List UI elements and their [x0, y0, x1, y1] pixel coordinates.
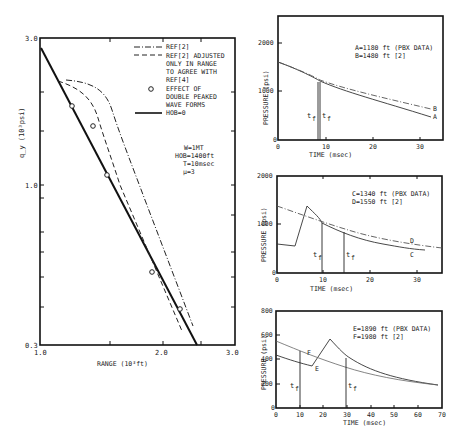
p3-xtick-40: 40 [367, 411, 375, 419]
p3-xtick-0: 0 [274, 411, 278, 419]
p1-ytick-2000: 2000 [258, 39, 274, 47]
left-legend: REF[2] REF[2] ADJUSTED ONLY IN RANGE TO … [134, 43, 225, 117]
p3-legend-e: E=1890 ft (PBX DATA) [353, 325, 431, 333]
annot-mu: μ=3 [183, 168, 195, 176]
legend-ref2-adjusted-4: REF[4] [166, 76, 189, 84]
left-annotation: W=1MT HOB=1400ft T=10msec μ=3 [175, 144, 214, 176]
p3-ytick-800: 800 [261, 307, 273, 315]
figure: 3.0 1.0 0.3 1.0 2.0 3.0 RANGE (10³ft) q_… [0, 0, 464, 443]
p1-label-b: B [433, 105, 437, 113]
p3-label-f: F [307, 349, 311, 357]
left-chart-frame [40, 38, 235, 345]
legend-hob0: HOB=0 [166, 109, 186, 117]
p1-x-axis-label: TIME (msec) [309, 151, 352, 159]
left-xtick-2: 2.0 [155, 349, 168, 357]
p1-xtick-30: 30 [416, 143, 424, 151]
p2-xtick-20: 20 [366, 276, 374, 284]
p3-tf-label-2: t [348, 382, 352, 390]
p2-label-d: D [410, 237, 414, 245]
p2-y-axis-label: PRESSURE (psi) [260, 207, 268, 262]
p1-tf-label-2: t [322, 112, 326, 120]
p2-xtick-10: 10 [319, 276, 327, 284]
p1-tf-sub-2: f [327, 115, 331, 123]
legend-ref2-adjusted-2: ONLY IN RANGE [166, 60, 217, 68]
left-xtick-3: 3.0 [226, 349, 239, 357]
series-ref2-adjusted [58, 81, 182, 331]
p2-x-axis-label: TIME (msec) [310, 285, 353, 293]
p3-tf-label-1: t [290, 382, 294, 390]
left-y-axis-label: q_y (10³psi) [18, 107, 26, 158]
p1-xtick-0: 0 [276, 143, 280, 151]
p3-x-axis-label: TIME (msec) [343, 419, 386, 427]
series-c [277, 206, 425, 250]
legend-ref2-adjusted: REF[2] ADJUSTED [166, 52, 225, 60]
p2-tf-label-2: t [346, 251, 350, 259]
p3-label-e: E [315, 365, 319, 373]
p1-tf-sub-1: f [312, 115, 316, 123]
legend-ref2: REF[2] [166, 43, 189, 51]
p3-xtick-60: 60 [414, 411, 422, 419]
p3-tf-sub-2: f [353, 385, 357, 393]
p2-xtick-0: 0 [275, 276, 279, 284]
legend-double-peaked-2: DOUBLE PEAKED [166, 93, 217, 101]
panel-ab-chart: 2000 1000 0 0 10 20 30 TIME (msec) PRESS… [258, 16, 443, 159]
p3-xtick-20: 20 [319, 411, 327, 419]
p1-label-a: A [433, 113, 437, 121]
p1-tf-label-1: t [307, 112, 311, 120]
annot-w: W=1MT [184, 144, 204, 152]
panel-ab-frame [278, 16, 443, 140]
p1-xtick-20: 20 [369, 143, 377, 151]
p2-tf-sub-2: f [351, 254, 355, 262]
legend-double-peaked: EFFECT OF [166, 85, 201, 93]
p1-legend-b: B=1480 ft [2] [355, 52, 406, 60]
p2-tf-sub-1: f [318, 254, 322, 262]
left-y-ticks [40, 38, 235, 345]
p3-tf-sub-1: f [295, 385, 299, 393]
legend-double-peaked-3: WAVE FORMS [166, 101, 205, 109]
series-b [278, 62, 431, 109]
p2-tf-label-1: t [313, 251, 317, 259]
annot-t: T=10msec [183, 160, 214, 168]
p2-xtick-30: 30 [413, 276, 421, 284]
series-a [278, 62, 431, 117]
p1-legend-a: A=1180 ft (PBX DATA) [355, 44, 433, 52]
p3-xtick-30: 30 [343, 411, 351, 419]
left-ytick-1: 1.0 [25, 182, 38, 190]
p3-xtick-50: 50 [390, 411, 398, 419]
legend-ref2-adjusted-3: TO AGREE WITH [166, 68, 217, 76]
p3-xtick-10: 10 [296, 411, 304, 419]
p2-ytick-2000: 2000 [257, 172, 273, 180]
annot-hob: HOB=1400ft [175, 152, 214, 160]
left-xtick-1: 1.0 [34, 349, 47, 357]
p1-xtick-10: 10 [322, 143, 330, 151]
p3-xtick-70: 70 [438, 411, 446, 419]
left-ytick-3: 3.0 [25, 35, 38, 43]
p3-y-axis-label: PRESSURE (psi) [260, 335, 268, 390]
left-x-axis-label: RANGE (10³ft) [97, 360, 148, 368]
p3-legend-f: F=1980 ft [2] [353, 333, 404, 341]
p2-legend-d: D=1550 ft [2] [352, 198, 403, 206]
p1-y-axis-label: PRESSURE (psi) [262, 70, 270, 125]
panel-cd-chart: 2000 1000 0 0 10 20 30 TIME (msec) PRESS… [257, 172, 442, 293]
left-chart: 3.0 1.0 0.3 1.0 2.0 3.0 RANGE (10³ft) q_… [18, 35, 239, 368]
p2-label-c: C [410, 251, 414, 259]
panel-ef-chart: 800 600 400 200 0 0 10 20 30 40 50 60 70… [260, 307, 446, 427]
p2-legend-c: C=1340 ft (PBX DATA) [352, 190, 430, 198]
series-d [277, 206, 442, 248]
panel-ef-ticks [276, 335, 418, 408]
